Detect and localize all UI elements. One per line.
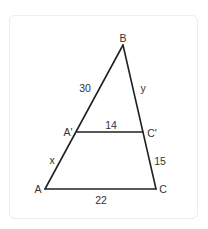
- vertex-label-B: B: [119, 32, 126, 44]
- edge-BC: [123, 45, 156, 189]
- vertex-label-A: A: [34, 183, 41, 195]
- vertex-label-C: C: [159, 183, 167, 195]
- triangle-diagram: B A C A' C' 30 y 14 x 15 22: [0, 0, 208, 229]
- segment-label-A-prime-C-prime: 14: [105, 119, 117, 131]
- edge-BA: [45, 45, 123, 189]
- segment-label-C-prime-C: 15: [154, 155, 166, 167]
- segment-label-AC: 22: [95, 194, 107, 206]
- segment-label-BC-prime: y: [140, 82, 146, 94]
- vertex-label-A-prime: A': [63, 126, 72, 138]
- segment-label-A-prime-A: x: [49, 154, 55, 166]
- segment-label-BA-prime: 30: [79, 82, 91, 94]
- vertex-label-C-prime: C': [147, 127, 157, 139]
